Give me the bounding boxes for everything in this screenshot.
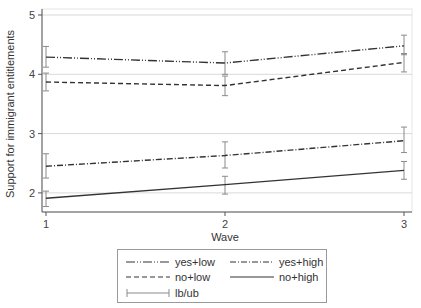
error-bar-range-icon bbox=[126, 289, 170, 297]
legend-label: no+low bbox=[175, 271, 210, 283]
legend-item-yes-low: yes+low bbox=[126, 255, 215, 269]
x-tick-label: 2 bbox=[222, 218, 228, 230]
dashed-line-icon bbox=[126, 274, 170, 280]
legend-label: yes+high bbox=[279, 256, 323, 268]
dash-dot-dot-line-icon bbox=[126, 259, 170, 265]
gridlines bbox=[42, 9, 412, 212]
legend-label: no+high bbox=[279, 271, 318, 283]
x-tick-label: 3 bbox=[401, 218, 407, 230]
x-axis-title: Wave bbox=[211, 231, 239, 243]
x-tick-label: 1 bbox=[43, 218, 49, 230]
y-axis-title: Support for immigrant entitlements bbox=[4, 29, 16, 198]
legend-label: lb/ub bbox=[175, 287, 199, 299]
legend-item-lb-ub: lb/ub bbox=[126, 286, 199, 300]
legend-item-yes-high: yes+high bbox=[230, 255, 323, 269]
legend-item-no-high: no+high bbox=[230, 270, 318, 284]
solid-line-icon bbox=[230, 274, 274, 280]
y-tick-label: 2 bbox=[29, 187, 35, 199]
dash-dot-line-icon bbox=[230, 259, 274, 265]
legend-item-no-low: no+low bbox=[126, 270, 210, 284]
y-tick-label: 5 bbox=[29, 9, 35, 21]
y-tick-label: 3 bbox=[29, 128, 35, 140]
legend-label: yes+low bbox=[175, 256, 215, 268]
legend: yes+low yes+high no+low no+high lb/ub bbox=[117, 249, 327, 303]
plot-area bbox=[42, 9, 412, 212]
y-tick-label: 4 bbox=[29, 68, 35, 80]
